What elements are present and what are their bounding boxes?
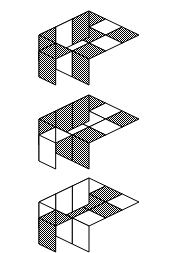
blocks-canvas — [0, 0, 178, 253]
block-1 — [39, 11, 139, 85]
isometric-blocks-figure — [0, 0, 178, 253]
block-3 — [39, 178, 139, 252]
block-2 — [39, 95, 139, 169]
